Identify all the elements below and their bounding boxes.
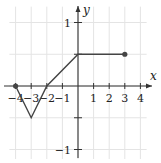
y-axis-arrow-icon [76, 6, 81, 12]
graph-figure: −4−3−2−112341−1 x y [0, 0, 161, 163]
y-tick-label: −1 [55, 144, 71, 157]
closed-endpoint-dot-icon [13, 83, 18, 88]
x-tick-label: 3 [121, 92, 128, 105]
x-tick-label: 4 [137, 92, 144, 105]
function-curve [13, 52, 127, 118]
x-axis-label: x [150, 69, 157, 83]
x-tick-label: 2 [106, 92, 113, 105]
closed-endpoint-dot-icon [122, 52, 127, 57]
x-axis-arrow-icon [146, 84, 152, 89]
x-tick-label: −3 [23, 92, 39, 105]
y-tick-label: 1 [64, 17, 71, 30]
y-axis-label: y [82, 3, 90, 17]
x-tick-label: −1 [54, 92, 70, 105]
axes [4, 6, 152, 158]
x-tick-label: 1 [90, 92, 97, 105]
function-graph: −4−3−2−112341−1 x y [0, 0, 161, 163]
